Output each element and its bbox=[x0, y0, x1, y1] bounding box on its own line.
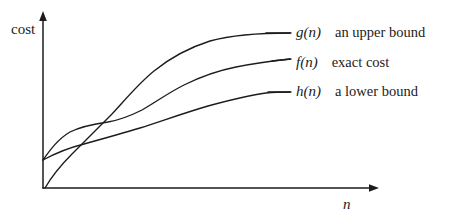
legend-symbol-f: f(n) bbox=[296, 54, 318, 71]
legend-description-g: an upper bound bbox=[335, 24, 425, 41]
legend-entry-g: g(n) an upper bound bbox=[296, 23, 425, 42]
legend-symbol-h: h(n) bbox=[296, 83, 321, 100]
legend-entry-f: f(n) exact cost bbox=[296, 53, 389, 72]
y-axis-arrowhead bbox=[39, 11, 47, 21]
x-axis-label: n bbox=[343, 197, 351, 212]
x-axis-arrowhead bbox=[369, 184, 379, 192]
legend-entry-h: h(n) a lower bound bbox=[296, 82, 418, 101]
leader-line-f bbox=[272, 59, 291, 61]
legend-description-f: exact cost bbox=[332, 54, 390, 71]
curve-h-lower-bound bbox=[43, 92, 290, 160]
x-axis bbox=[43, 184, 379, 192]
y-axis-label: cost bbox=[11, 22, 35, 37]
legend-description-h: a lower bound bbox=[335, 83, 418, 100]
curve-g-upper-bound bbox=[45, 33, 290, 188]
y-axis bbox=[39, 11, 47, 188]
legend-symbol-g: g(n) bbox=[296, 24, 321, 41]
asymptotic-bounds-figure: cost n g(n) an upper bound f(n) exact co… bbox=[0, 0, 452, 219]
